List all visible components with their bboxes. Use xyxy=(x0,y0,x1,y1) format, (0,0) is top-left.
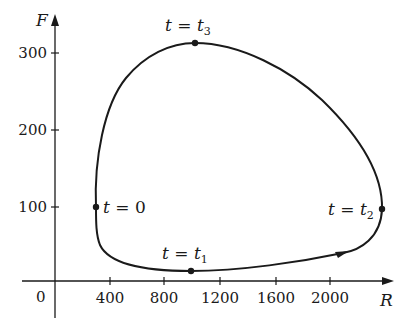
y-axis xyxy=(51,14,59,318)
x-axis-label: R xyxy=(379,290,393,310)
x-tick-label-2000: 2000 xyxy=(311,289,349,307)
y-tick-label-200: 200 xyxy=(18,121,47,139)
phase-plane-diagram: F R 0 300 200 100 400 800 1200 1600 2000… xyxy=(0,0,411,333)
origin-label: 0 xyxy=(36,288,46,306)
y-axis-label: F xyxy=(35,10,49,30)
point-t0 xyxy=(93,204,99,210)
y-axis-arrow-icon xyxy=(51,14,59,26)
x-tick-label-400: 400 xyxy=(96,289,125,307)
point-t3 xyxy=(192,40,198,46)
x-axis-arrow-icon xyxy=(382,277,394,285)
phase-curve xyxy=(96,43,382,271)
label-t3: t = t3 xyxy=(165,15,211,38)
point-t1 xyxy=(188,268,194,274)
y-tick-label-300: 300 xyxy=(18,44,47,62)
direction-arrow-icon xyxy=(335,251,349,258)
x-tick-label-1200: 1200 xyxy=(201,289,239,307)
label-t2: t = t2 xyxy=(328,199,374,222)
label-t1: t = t1 xyxy=(162,243,208,266)
x-tick-label-800: 800 xyxy=(150,289,179,307)
x-axis xyxy=(22,277,394,285)
point-t2 xyxy=(379,206,385,212)
y-tick-label-100: 100 xyxy=(18,198,47,216)
x-tick-label-1600: 1600 xyxy=(257,289,295,307)
label-t0: t = 0 xyxy=(103,197,146,217)
